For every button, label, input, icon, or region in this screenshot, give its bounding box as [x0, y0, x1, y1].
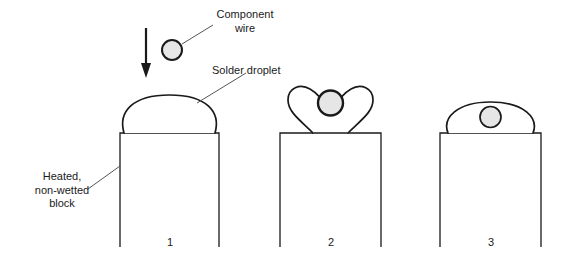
- heated-block-3: [440, 133, 541, 247]
- downward-motion-arrow: [141, 28, 151, 78]
- component-wire-circle: [162, 40, 182, 60]
- heated-block-label-line-1: Heated,: [18, 170, 106, 184]
- solder-wetting-diagram: Component wire Solder droplet Heated, no…: [0, 0, 562, 258]
- panel-3-group: [440, 102, 541, 247]
- component-wire-label: Component wire: [199, 8, 291, 35]
- solder-droplet-label: Solder droplet: [212, 64, 312, 78]
- heated-block-label: Heated, non-wetted block: [18, 170, 106, 211]
- panel-1-group: [120, 95, 219, 247]
- solder-droplet-leader-line: [197, 73, 246, 103]
- solder-droplet-label-line-1: Solder droplet: [212, 64, 312, 78]
- panel-number-2: 2: [321, 236, 341, 248]
- heated-block-label-line-2: non-wetted: [18, 184, 106, 198]
- heated-block-label-line-3: block: [18, 197, 106, 211]
- solder-droplet-1: [123, 95, 217, 133]
- diagram-canvas: [0, 0, 562, 258]
- panel-number-3: 3: [481, 236, 501, 248]
- heated-block-1: [120, 133, 219, 247]
- panel-2-group: [280, 86, 381, 247]
- heated-block-2: [280, 133, 381, 247]
- component-wire-circle-2: [318, 91, 343, 116]
- component-wire-label-line-1: Component: [199, 8, 291, 22]
- component-wire-circle-3: [480, 107, 501, 128]
- panel-number-1: 1: [160, 236, 180, 248]
- component-wire-label-line-2: wire: [199, 22, 291, 36]
